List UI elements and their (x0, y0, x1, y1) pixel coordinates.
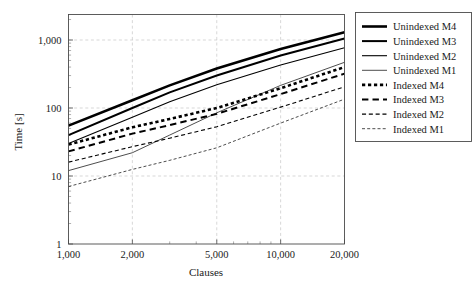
legend-label: Unindexed M3 (393, 36, 456, 47)
legend-label: Unindexed M4 (393, 21, 457, 32)
x-tick-label: 5,000 (205, 249, 229, 260)
x-tick-label: 10,000 (266, 249, 295, 260)
legend-label: Indexed M3 (393, 94, 444, 105)
legend-label: Indexed M2 (393, 109, 444, 120)
x-tick-label: 20,000 (330, 249, 359, 260)
legend-label: Indexed M4 (393, 80, 445, 91)
legend-label: Unindexed M2 (393, 51, 456, 62)
chart-figure: 1,0002,0005,00010,00020,000 1101001,000 … (0, 0, 476, 296)
x-axis-title: Clauses (189, 266, 223, 278)
y-tick-label: 10 (51, 171, 62, 182)
x-tick-label: 1,000 (57, 249, 81, 260)
log-log-line-chart: 1,0002,0005,00010,00020,000 1101001,000 … (0, 0, 476, 296)
y-tick-label: 1,000 (38, 35, 62, 46)
y-tick-label: 100 (46, 103, 62, 114)
legend-label: Unindexed M1 (393, 65, 456, 76)
x-tick-label: 2,000 (121, 249, 145, 260)
chart-legend: Unindexed M4Unindexed M3Unindexed M2Unin… (356, 13, 472, 142)
y-tick-label: 1 (56, 239, 61, 250)
y-axis-title: Time [s] (12, 113, 24, 150)
legend-label: Indexed M1 (393, 124, 444, 135)
